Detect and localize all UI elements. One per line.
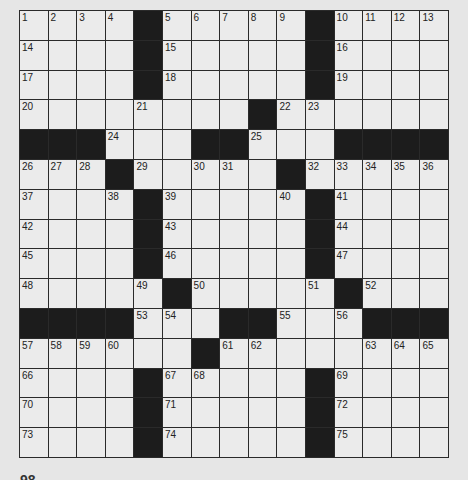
- grid-cell[interactable]: 61: [220, 339, 248, 368]
- grid-cell[interactable]: [106, 279, 134, 308]
- grid-cell[interactable]: [220, 279, 248, 308]
- grid-cell[interactable]: [192, 249, 220, 278]
- grid-cell[interactable]: [420, 279, 448, 308]
- grid-cell[interactable]: 66: [20, 369, 48, 398]
- grid-cell[interactable]: [392, 100, 420, 129]
- grid-cell[interactable]: [192, 71, 220, 100]
- grid-cell[interactable]: [192, 428, 220, 457]
- grid-cell[interactable]: 10: [335, 11, 363, 40]
- grid-cell[interactable]: 42: [20, 220, 48, 249]
- grid-cell[interactable]: [392, 428, 420, 457]
- grid-cell[interactable]: [363, 249, 391, 278]
- grid-cell[interactable]: 63: [363, 339, 391, 368]
- grid-cell[interactable]: [77, 249, 105, 278]
- grid-cell[interactable]: [420, 428, 448, 457]
- grid-cell[interactable]: [163, 130, 191, 159]
- grid-cell[interactable]: 27: [49, 160, 77, 189]
- grid-cell[interactable]: 34: [363, 160, 391, 189]
- grid-cell[interactable]: [106, 249, 134, 278]
- grid-cell[interactable]: [220, 249, 248, 278]
- grid-cell[interactable]: [277, 428, 305, 457]
- grid-cell[interactable]: [106, 100, 134, 129]
- grid-cell[interactable]: 29: [134, 160, 162, 189]
- grid-cell[interactable]: [420, 369, 448, 398]
- grid-cell[interactable]: [249, 249, 277, 278]
- grid-cell[interactable]: 44: [335, 220, 363, 249]
- grid-cell[interactable]: [363, 428, 391, 457]
- grid-cell[interactable]: [134, 130, 162, 159]
- grid-cell[interactable]: 20: [20, 100, 48, 129]
- grid-cell[interactable]: [420, 220, 448, 249]
- grid-cell[interactable]: 8: [249, 11, 277, 40]
- grid-cell[interactable]: [420, 190, 448, 219]
- grid-cell[interactable]: 17: [20, 71, 48, 100]
- grid-cell[interactable]: 62: [249, 339, 277, 368]
- grid-cell[interactable]: [77, 428, 105, 457]
- grid-cell[interactable]: [49, 100, 77, 129]
- grid-cell[interactable]: [392, 71, 420, 100]
- grid-cell[interactable]: 54: [163, 309, 191, 338]
- grid-cell[interactable]: 52: [363, 279, 391, 308]
- grid-cell[interactable]: 19: [335, 71, 363, 100]
- grid-cell[interactable]: 49: [134, 279, 162, 308]
- grid-cell[interactable]: [420, 41, 448, 70]
- grid-cell[interactable]: [277, 71, 305, 100]
- grid-cell[interactable]: [277, 130, 305, 159]
- grid-cell[interactable]: [363, 71, 391, 100]
- grid-cell[interactable]: [220, 220, 248, 249]
- grid-cell[interactable]: 75: [335, 428, 363, 457]
- grid-cell[interactable]: [249, 190, 277, 219]
- grid-cell[interactable]: [363, 369, 391, 398]
- grid-cell[interactable]: [49, 369, 77, 398]
- grid-cell[interactable]: 24: [106, 130, 134, 159]
- grid-cell[interactable]: 53: [134, 309, 162, 338]
- grid-cell[interactable]: [420, 100, 448, 129]
- grid-cell[interactable]: 13: [420, 11, 448, 40]
- grid-cell[interactable]: 22: [277, 100, 305, 129]
- grid-cell[interactable]: 47: [335, 249, 363, 278]
- grid-cell[interactable]: [106, 41, 134, 70]
- grid-cell[interactable]: [192, 190, 220, 219]
- grid-cell[interactable]: [420, 71, 448, 100]
- grid-cell[interactable]: [249, 398, 277, 427]
- grid-cell[interactable]: 7: [220, 11, 248, 40]
- grid-cell[interactable]: [277, 279, 305, 308]
- grid-cell[interactable]: [220, 41, 248, 70]
- grid-cell[interactable]: [192, 398, 220, 427]
- grid-cell[interactable]: 18: [163, 71, 191, 100]
- grid-cell[interactable]: 59: [77, 339, 105, 368]
- grid-cell[interactable]: 50: [192, 279, 220, 308]
- grid-cell[interactable]: 23: [306, 100, 334, 129]
- grid-cell[interactable]: [77, 369, 105, 398]
- grid-cell[interactable]: [249, 369, 277, 398]
- grid-cell[interactable]: [77, 71, 105, 100]
- grid-cell[interactable]: 30: [192, 160, 220, 189]
- grid-cell[interactable]: [49, 190, 77, 219]
- grid-cell[interactable]: [363, 398, 391, 427]
- grid-cell[interactable]: [335, 339, 363, 368]
- grid-cell[interactable]: [392, 190, 420, 219]
- grid-cell[interactable]: [163, 339, 191, 368]
- grid-cell[interactable]: [192, 309, 220, 338]
- grid-cell[interactable]: [306, 130, 334, 159]
- grid-cell[interactable]: 1: [20, 11, 48, 40]
- grid-cell[interactable]: [392, 249, 420, 278]
- grid-cell[interactable]: [49, 279, 77, 308]
- grid-cell[interactable]: 74: [163, 428, 191, 457]
- grid-cell[interactable]: 46: [163, 249, 191, 278]
- grid-cell[interactable]: [106, 71, 134, 100]
- grid-cell[interactable]: 69: [335, 369, 363, 398]
- grid-cell[interactable]: 11: [363, 11, 391, 40]
- grid-cell[interactable]: 37: [20, 190, 48, 219]
- grid-cell[interactable]: [392, 220, 420, 249]
- grid-cell[interactable]: [249, 428, 277, 457]
- grid-cell[interactable]: [277, 41, 305, 70]
- grid-cell[interactable]: 58: [49, 339, 77, 368]
- grid-cell[interactable]: 26: [20, 160, 48, 189]
- grid-cell[interactable]: [363, 41, 391, 70]
- grid-cell[interactable]: [277, 339, 305, 368]
- grid-cell[interactable]: [249, 71, 277, 100]
- grid-cell[interactable]: 41: [335, 190, 363, 219]
- grid-cell[interactable]: 56: [335, 309, 363, 338]
- grid-cell[interactable]: 9: [277, 11, 305, 40]
